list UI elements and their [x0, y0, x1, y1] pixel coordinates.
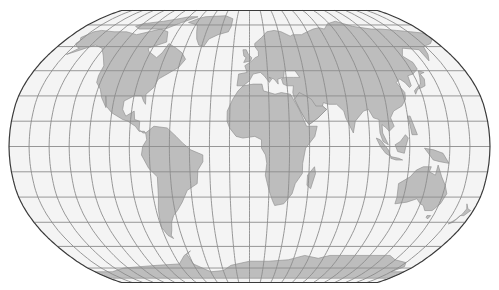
world-map	[0, 0, 499, 290]
robinson-world-map	[0, 0, 499, 290]
